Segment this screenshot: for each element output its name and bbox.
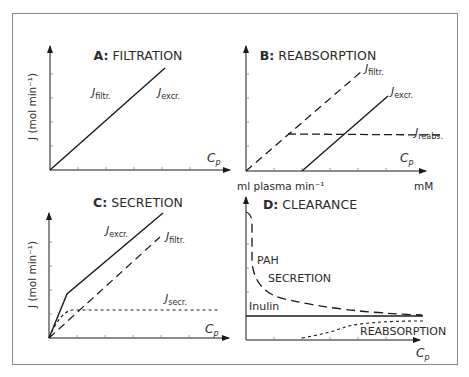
label-j-filtr: Jfiltr. <box>164 230 185 245</box>
excretion-line <box>302 96 388 171</box>
panel-a-title: A: FILTRATION <box>94 48 183 63</box>
panel-a-axes <box>50 46 230 170</box>
label-j-filtr: Jfiltr. <box>90 86 111 101</box>
panel-b-axes <box>246 46 426 171</box>
filtration-dashed-line <box>246 71 362 171</box>
clearance-y-axis-label: ml plasma min⁻¹ <box>237 180 325 192</box>
panel-d: D: CLEARANCE PAH SECRETION Inulin REABSO… <box>246 197 446 362</box>
label-j-excr: Jexcr. <box>389 85 413 100</box>
concentration-unit-label: mM <box>414 180 433 192</box>
y-axis-label-c: J (mol min⁻¹) <box>26 241 38 309</box>
x-axis-label-cp: Cp <box>400 151 413 167</box>
x-axis-label-cp: Cp <box>205 322 218 338</box>
label-j-excr: Jexcr. <box>156 86 180 101</box>
panel-b: B: REABSORPTION Jfiltr. Jexcr. Jreabs. C… <box>246 46 443 171</box>
filtration-dashed-line <box>49 237 160 338</box>
renal-transport-figure: A: FILTRATION Jfiltr. Jexcr. Cp J (mol m… <box>0 0 469 377</box>
panel-a: A: FILTRATION Jfiltr. Jexcr. Cp J (mol m… <box>26 46 230 170</box>
panel-b-title: B: REABSORPTION <box>260 48 377 63</box>
panel-d-axes <box>246 197 420 340</box>
panel-c: C: SECRETION Jexcr. Jfiltr. Jsecr. Cp J … <box>26 195 229 338</box>
label-j-secr: Jsecr. <box>163 292 187 307</box>
label-reabsorption: REABSORPTION <box>360 325 446 338</box>
y-axis-label-a: J (mol min⁻¹) <box>26 73 38 141</box>
label-j-reabs: Jreabs. <box>413 126 443 141</box>
x-axis-label-cp: Cp <box>416 346 429 362</box>
panel-c-title: C: SECRETION <box>93 195 183 210</box>
label-j-excr: Jexcr. <box>104 224 128 239</box>
label-j-filtr: Jfiltr. <box>363 62 384 77</box>
panel-c-axes <box>49 213 229 338</box>
label-inulin: Inulin <box>249 300 279 313</box>
x-axis-label-cp: Cp <box>207 151 220 167</box>
panel-d-title: D: CLEARANCE <box>263 197 357 212</box>
filtration-excretion-line <box>50 68 165 170</box>
label-pah: PAH <box>257 254 279 267</box>
label-secretion: SECRETION <box>268 272 331 285</box>
secretion-dotted-line <box>49 310 220 338</box>
